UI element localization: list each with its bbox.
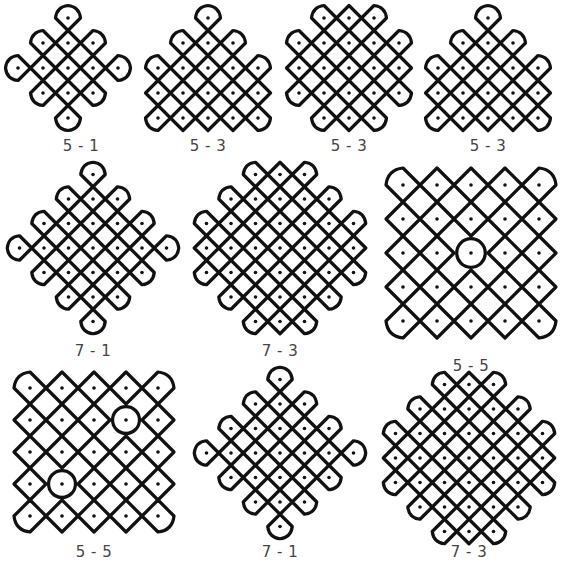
caption-7-3-a: 7 - 3 <box>240 342 320 360</box>
kolam-dot <box>516 481 520 485</box>
kolam-dot <box>394 456 398 460</box>
kolam-dot <box>492 505 496 509</box>
kolam-dot <box>492 432 496 436</box>
kolam-dot <box>541 432 545 436</box>
kolam-dot <box>492 383 496 387</box>
kolam-dot <box>467 456 471 460</box>
caption-5-1: 5 - 1 <box>41 137 121 155</box>
kolam-dot <box>443 530 447 534</box>
caption-7-3-b: 7 - 3 <box>429 543 509 561</box>
kolam-dot <box>443 456 447 460</box>
kolam-dot <box>467 432 471 436</box>
caption-5-5-b: 5 - 5 <box>54 543 134 561</box>
kolam-dot <box>467 383 471 387</box>
kolam-dot <box>443 407 447 411</box>
kolam-dot <box>516 432 520 436</box>
kolam-dot <box>541 456 545 460</box>
kolam-dot <box>541 481 545 485</box>
kolam-dot <box>516 505 520 509</box>
kolam-dot <box>443 505 447 509</box>
caption-5-3-c: 5 - 3 <box>448 137 528 155</box>
kolam-dot <box>467 407 471 411</box>
kolam-dot <box>467 505 471 509</box>
kolam-dot <box>516 456 520 460</box>
kolam-dot <box>394 432 398 436</box>
kolam-dot <box>492 407 496 411</box>
kolam-dot <box>516 407 520 411</box>
kolam-dot <box>467 530 471 534</box>
caption-7-1-b: 7 - 1 <box>240 543 320 561</box>
kolam-dot <box>418 407 422 411</box>
kolam-dot <box>443 432 447 436</box>
kolam-dot <box>492 456 496 460</box>
kolam-dot <box>492 481 496 485</box>
caption-7-1-a: 7 - 1 <box>53 342 133 360</box>
kolam-dot <box>418 456 422 460</box>
caption-5-5-a: 5 - 5 <box>431 357 511 375</box>
kolam-pattern-7-3-b <box>0 0 563 567</box>
kolam-dot <box>418 481 422 485</box>
caption-5-3-a: 5 - 3 <box>168 137 248 155</box>
kolam-dot <box>492 530 496 534</box>
kolam-dot <box>418 432 422 436</box>
kolam-dot <box>418 505 422 509</box>
kolam-dot <box>443 481 447 485</box>
caption-5-3-b: 5 - 3 <box>309 137 389 155</box>
kolam-dot <box>443 383 447 387</box>
kolam-dot <box>467 481 471 485</box>
kolam-dot <box>394 481 398 485</box>
